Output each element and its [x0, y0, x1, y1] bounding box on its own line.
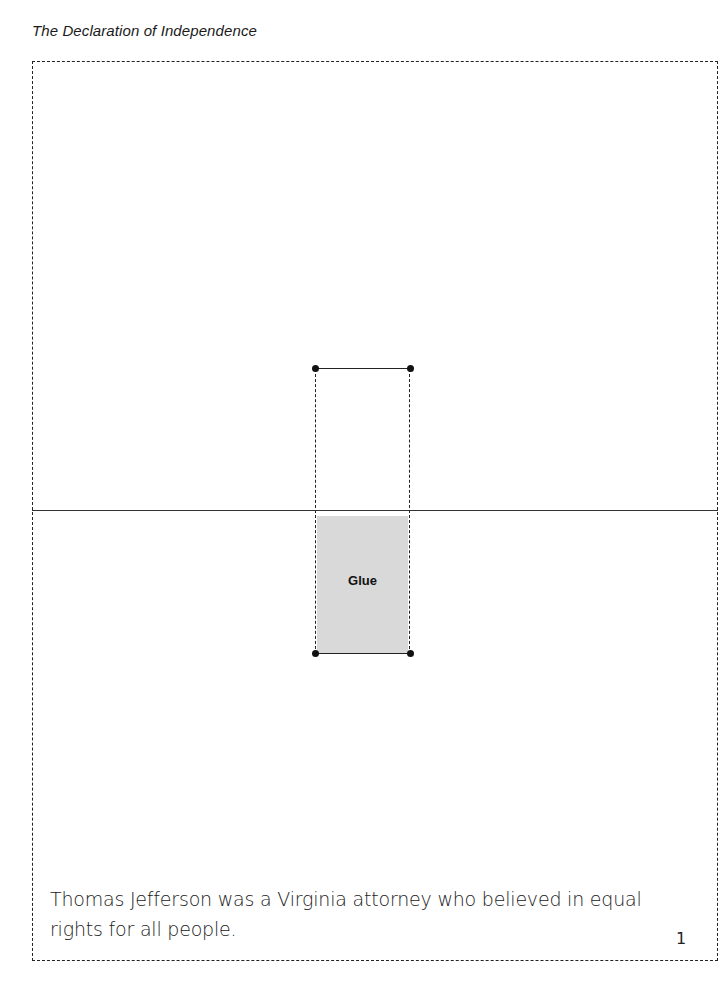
fold-line: [32, 510, 718, 511]
corner-dot-icon: [407, 650, 414, 657]
corner-dot-icon: [312, 365, 319, 372]
document-title: The Declaration of Independence: [32, 22, 257, 39]
glue-area: Glue: [317, 516, 408, 653]
tab-cut-line-right: [409, 369, 410, 654]
page-caption: Thomas Jefferson was a Virginia attorney…: [50, 884, 670, 944]
page-number: 1: [676, 929, 686, 948]
tab-fold-edge-bottom: [315, 653, 410, 654]
glue-label: Glue: [348, 573, 377, 588]
corner-dot-icon: [407, 365, 414, 372]
tab-cut-line-left: [315, 369, 316, 654]
tab-fold-edge-top: [315, 368, 410, 369]
corner-dot-icon: [312, 650, 319, 657]
cut-out-page-border: [32, 61, 718, 961]
